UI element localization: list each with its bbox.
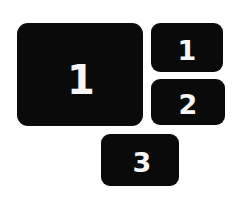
block-2-label: 2: [179, 89, 198, 120]
diagram-canvas: 1 1 2 3: [0, 0, 239, 211]
block-3-label: 3: [133, 147, 152, 178]
block-3: 3: [101, 134, 179, 186]
block-1-small-label: 1: [178, 35, 197, 66]
block-1-large-label: 1: [67, 57, 95, 103]
block-1-small: 1: [151, 23, 223, 72]
block-2: 2: [151, 79, 225, 125]
block-1-large: 1: [17, 23, 143, 126]
